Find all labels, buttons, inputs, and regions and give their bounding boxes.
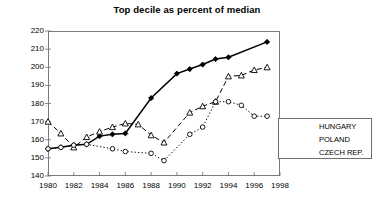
series-hungary — [45, 39, 269, 151]
y-tick-label: 170 — [20, 118, 44, 126]
series-poland — [45, 64, 270, 150]
series-czech-rep — [46, 99, 270, 163]
y-tick-label: 160 — [20, 136, 44, 144]
y-tick-label: 180 — [20, 100, 44, 108]
legend-label-poland: POLAND — [319, 135, 350, 145]
y-tick-label: 150 — [20, 154, 44, 162]
chart-canvas — [0, 0, 374, 202]
legend-item-czech-rep[interactable]: CZECH REP. — [281, 147, 371, 159]
y-tick-label: 190 — [20, 81, 44, 89]
y-tick-label: 140 — [20, 172, 44, 180]
chart-legend: HUNGARY POLAND CZECH REP. — [278, 118, 372, 159]
y-tick-label: 220 — [20, 27, 44, 35]
legend-label-czech-rep: CZECH REP. — [319, 148, 363, 158]
legend-item-hungary[interactable]: HUNGARY — [281, 121, 371, 133]
chart-root: Top decile as percent of median 14015016… — [0, 0, 374, 202]
y-tick-label: 200 — [20, 63, 44, 71]
legend-item-poland[interactable]: POLAND — [281, 134, 371, 146]
x-tick-label: 1998 — [264, 182, 296, 190]
legend-label-hungary: HUNGARY — [319, 122, 356, 132]
y-tick-label: 210 — [20, 45, 44, 53]
data-series — [45, 39, 270, 163]
axis-ticks — [45, 31, 280, 176]
